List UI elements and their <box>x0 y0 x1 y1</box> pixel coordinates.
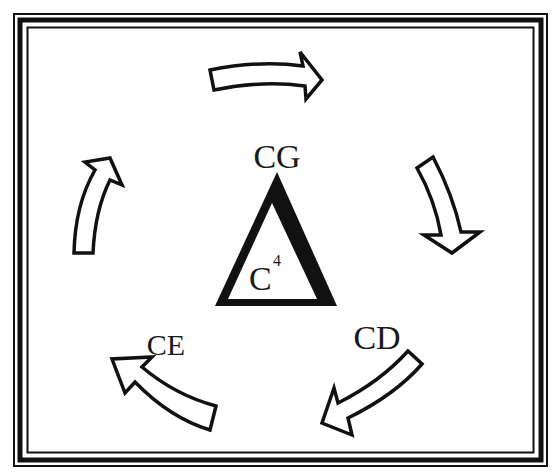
arrow-top-icon <box>210 52 322 99</box>
arrow-left-icon <box>74 158 122 253</box>
center-label: C <box>249 260 272 297</box>
node-label-cg: CG <box>253 138 300 175</box>
cycle-diagram: CG C 4 CD CE <box>0 0 560 476</box>
arrow-bottom-right-icon <box>322 351 422 435</box>
node-label-ce: CE <box>147 328 185 361</box>
arrow-right-icon <box>417 157 480 253</box>
center-superscript: 4 <box>273 252 281 269</box>
node-label-cd: CD <box>353 319 400 356</box>
center-triangle <box>215 172 337 306</box>
arrow-bottom-left-icon <box>112 357 216 430</box>
